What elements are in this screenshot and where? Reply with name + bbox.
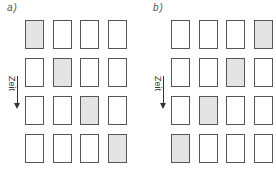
cell-filled bbox=[80, 96, 99, 125]
cell-empty bbox=[199, 58, 218, 87]
cell-grid-a bbox=[25, 20, 127, 163]
cell-empty bbox=[254, 134, 273, 163]
cell-empty bbox=[80, 134, 99, 163]
time-axis-a: Zeit bbox=[4, 76, 16, 116]
cell-filled bbox=[226, 58, 245, 87]
arrow-down-icon bbox=[14, 103, 20, 109]
cell-empty bbox=[226, 96, 245, 125]
panel-b: b) Zeit bbox=[138, 0, 276, 174]
cell-empty bbox=[25, 134, 44, 163]
arrow-line bbox=[17, 76, 18, 104]
panel-a-label: a) bbox=[7, 2, 18, 13]
cell-filled bbox=[53, 58, 72, 87]
cell-empty bbox=[53, 134, 72, 163]
cell-empty bbox=[108, 20, 127, 49]
cell-empty bbox=[171, 58, 190, 87]
cell-empty bbox=[171, 96, 190, 125]
cell-empty bbox=[53, 96, 72, 125]
cell-empty bbox=[25, 96, 44, 125]
time-axis-label: Zeit bbox=[7, 76, 17, 91]
cell-filled bbox=[171, 134, 190, 163]
time-axis-label: Zeit bbox=[153, 76, 163, 91]
time-axis-b: Zeit bbox=[150, 76, 162, 116]
cell-filled bbox=[254, 20, 273, 49]
cell-filled bbox=[199, 96, 218, 125]
arrow-down-icon bbox=[160, 103, 166, 109]
cell-empty bbox=[226, 134, 245, 163]
arrow-line bbox=[163, 76, 164, 104]
panel-a: a) Zeit bbox=[0, 0, 138, 174]
cell-empty bbox=[80, 20, 99, 49]
cell-empty bbox=[199, 20, 218, 49]
cell-filled bbox=[108, 134, 127, 163]
cell-empty bbox=[254, 96, 273, 125]
cell-empty bbox=[226, 20, 245, 49]
cell-empty bbox=[25, 58, 44, 87]
cell-empty bbox=[171, 20, 190, 49]
panel-b-label: b) bbox=[153, 2, 164, 13]
cell-empty bbox=[254, 58, 273, 87]
cell-empty bbox=[53, 20, 72, 49]
cell-empty bbox=[108, 58, 127, 87]
cell-empty bbox=[199, 134, 218, 163]
cell-grid-b bbox=[171, 20, 273, 163]
cell-empty bbox=[108, 96, 127, 125]
cell-filled bbox=[25, 20, 44, 49]
cell-empty bbox=[80, 58, 99, 87]
